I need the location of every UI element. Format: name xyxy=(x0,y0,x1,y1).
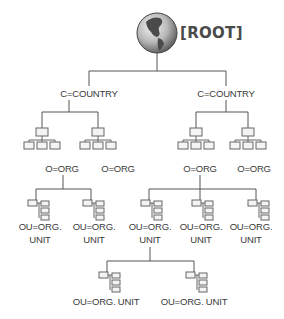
subunit-label: OU=ORG. UNIT xyxy=(66,295,146,308)
root-label: [ROOT] xyxy=(180,24,243,42)
org-icon xyxy=(24,128,60,149)
tree-connectors xyxy=(0,0,284,319)
subunit-label: OU=ORG. UNIT xyxy=(154,295,234,308)
country-label: C=COUNTRY xyxy=(186,87,266,100)
org-icon xyxy=(178,128,214,149)
org-label: O=ORG xyxy=(229,162,279,175)
country-label: C=COUNTRY xyxy=(49,87,129,100)
ou-label: OU=ORG.UNIT xyxy=(69,220,119,246)
org-label: O=ORG xyxy=(93,162,143,175)
ou-label: OU=ORG.UNIT xyxy=(176,220,226,246)
org-label: O=ORG xyxy=(175,162,225,175)
globe-icon xyxy=(137,13,177,53)
org-icon xyxy=(230,128,266,149)
org-label: O=ORG xyxy=(37,162,87,175)
org-icon xyxy=(80,128,116,149)
ou-label: OU=ORG.UNIT xyxy=(15,220,65,246)
ou-label: OU=ORG.UNIT xyxy=(125,220,175,246)
ou-label: OU=ORG.UNIT xyxy=(226,220,276,246)
